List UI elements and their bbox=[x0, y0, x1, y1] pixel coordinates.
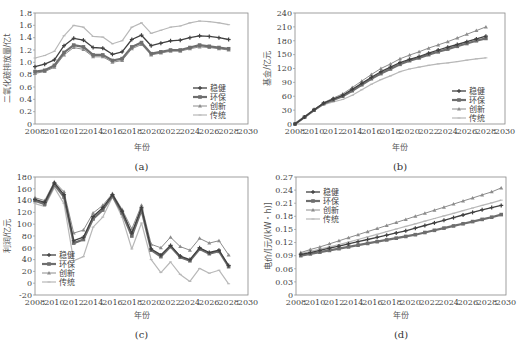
x-tick-label: 2030 bbox=[238, 298, 258, 307]
legend-item: 传统 bbox=[59, 277, 75, 287]
x-tick-label: 2026 bbox=[199, 127, 219, 136]
legend-item: 传统 bbox=[323, 214, 339, 224]
figure-canvas: 00.20.40.60.81.01.21.41.61.8200820102012… bbox=[0, 0, 519, 345]
x-axis-label: 年份 bbox=[134, 310, 150, 320]
y-tick-label: 60 bbox=[22, 244, 32, 253]
x-tick-label: 2022 bbox=[419, 298, 439, 307]
x-tick-label: 2014 bbox=[343, 298, 363, 307]
series-环保 bbox=[293, 37, 488, 126]
y-tick-label: 120 bbox=[17, 208, 32, 217]
x-tick-label: 2012 bbox=[324, 298, 344, 307]
chart-caption: (c) bbox=[135, 329, 149, 340]
y-tick-label: 0.06 bbox=[275, 265, 293, 274]
legend-item: 环保 bbox=[469, 95, 485, 105]
y-tick-label: 180 bbox=[17, 173, 32, 182]
x-tick-label: 2014 bbox=[342, 127, 362, 136]
x-tick-label: 2026 bbox=[458, 298, 478, 307]
legend-item: 稳健 bbox=[323, 187, 339, 197]
y-axis-label: 电价/[元/(kW・h)] bbox=[263, 202, 273, 270]
y-axis-label: 利润/亿元 bbox=[2, 219, 12, 254]
y-tick-label: 1.4 bbox=[19, 33, 32, 42]
x-tick-label: 2030 bbox=[495, 127, 515, 136]
chart-a: 00.20.40.60.81.01.21.41.61.8200820102012… bbox=[2, 9, 258, 172]
y-tick-label: 0.27 bbox=[275, 173, 293, 182]
x-tick-label: 2020 bbox=[141, 127, 161, 136]
y-tick-label: 100 bbox=[17, 220, 32, 229]
legend-item: 稳健 bbox=[59, 250, 75, 260]
legend-item: 创新 bbox=[469, 104, 485, 114]
x-tick-label: 2030 bbox=[496, 298, 516, 307]
x-tick-label: 2012 bbox=[323, 127, 343, 136]
x-tick-label: 2020 bbox=[400, 298, 420, 307]
x-tick-label: 2014 bbox=[83, 127, 103, 136]
x-tick-label: 2016 bbox=[362, 298, 382, 307]
y-axis-label: 基金/亿元 bbox=[262, 51, 272, 86]
series-创新 bbox=[33, 180, 231, 257]
legend-item: 环保 bbox=[323, 196, 339, 206]
x-tick-label: 2016 bbox=[102, 298, 122, 307]
x-tick-label: 2014 bbox=[83, 298, 103, 307]
y-tick-label: 0 bbox=[27, 279, 32, 288]
x-tick-label: 2028 bbox=[477, 298, 497, 307]
y-tick-label: 0.03 bbox=[275, 278, 293, 287]
y-tick-label: 0.18 bbox=[275, 212, 293, 221]
x-tick-label: 2024 bbox=[180, 127, 200, 136]
legend-item: 创新 bbox=[210, 101, 226, 111]
y-tick-label: 80 bbox=[22, 232, 32, 241]
y-tick-label: 210 bbox=[277, 23, 292, 32]
x-tick-label: 2026 bbox=[199, 298, 219, 307]
legend-item: 创新 bbox=[59, 268, 75, 278]
legend: 稳健环保创新传统 bbox=[193, 83, 226, 120]
chart-caption: (b) bbox=[393, 161, 407, 172]
x-axis-label: 年份 bbox=[134, 142, 150, 152]
legend-item: 传统 bbox=[210, 110, 226, 120]
legend-item: 稳健 bbox=[469, 86, 485, 96]
x-tick-label: 2028 bbox=[218, 298, 238, 307]
x-tick-label: 2020 bbox=[399, 127, 419, 136]
y-tick-label: 0.2 bbox=[19, 107, 32, 116]
y-tick-label: 90 bbox=[282, 78, 292, 87]
y-tick-label: 1.6 bbox=[19, 21, 32, 30]
legend-item: 环保 bbox=[210, 92, 226, 102]
y-tick-label: 0.21 bbox=[275, 199, 293, 208]
y-tick-label: 0.15 bbox=[275, 225, 293, 234]
x-tick-label: 2024 bbox=[180, 298, 200, 307]
y-tick-label: 20 bbox=[22, 267, 32, 276]
x-tick-label: 2022 bbox=[160, 298, 180, 307]
x-tick-label: 2012 bbox=[64, 127, 84, 136]
x-tick-label: 2008 bbox=[25, 298, 45, 307]
y-tick-label: 160 bbox=[17, 185, 32, 194]
x-tick-label: 2024 bbox=[438, 127, 458, 136]
x-axis-label: 年份 bbox=[392, 142, 408, 152]
y-axis-label: 二氧化碳排放量/亿t bbox=[2, 34, 12, 104]
y-tick-label: 180 bbox=[277, 37, 292, 46]
chart-b: 0306090120150180210240200820102012201420… bbox=[262, 9, 515, 172]
y-tick-label: 140 bbox=[17, 196, 32, 205]
x-tick-label: 2018 bbox=[381, 298, 401, 307]
y-tick-label: 0.6 bbox=[19, 83, 32, 92]
legend-item: 传统 bbox=[469, 113, 485, 123]
x-tick-label: 2018 bbox=[122, 298, 142, 307]
x-tick-label: 2028 bbox=[218, 127, 238, 136]
legend: 稳健环保创新传统 bbox=[306, 187, 339, 224]
legend: 稳健环保创新传统 bbox=[42, 250, 75, 287]
y-tick-label: 60 bbox=[282, 92, 292, 101]
x-axis-label: 年份 bbox=[393, 310, 409, 320]
x-tick-label: 2024 bbox=[439, 298, 459, 307]
y-tick-label: 1.2 bbox=[19, 46, 32, 55]
x-tick-label: 2016 bbox=[361, 127, 381, 136]
chart-caption: (a) bbox=[135, 161, 149, 172]
y-tick-label: 1.8 bbox=[19, 9, 32, 18]
x-tick-label: 2018 bbox=[380, 127, 400, 136]
x-tick-label: 2010 bbox=[44, 298, 64, 307]
x-tick-label: 2026 bbox=[457, 127, 477, 136]
legend-item: 创新 bbox=[323, 205, 339, 215]
legend: 稳健环保创新传统 bbox=[452, 86, 485, 123]
x-tick-label: 2016 bbox=[102, 127, 122, 136]
y-tick-label: 0.24 bbox=[275, 186, 293, 195]
chart-d: 00.030.060.090.120.150.180.210.240.27200… bbox=[263, 173, 516, 340]
legend-item: 环保 bbox=[59, 259, 75, 269]
x-tick-label: 2018 bbox=[122, 127, 142, 136]
y-tick-label: 120 bbox=[277, 64, 292, 73]
y-tick-label: 0.4 bbox=[19, 95, 32, 104]
